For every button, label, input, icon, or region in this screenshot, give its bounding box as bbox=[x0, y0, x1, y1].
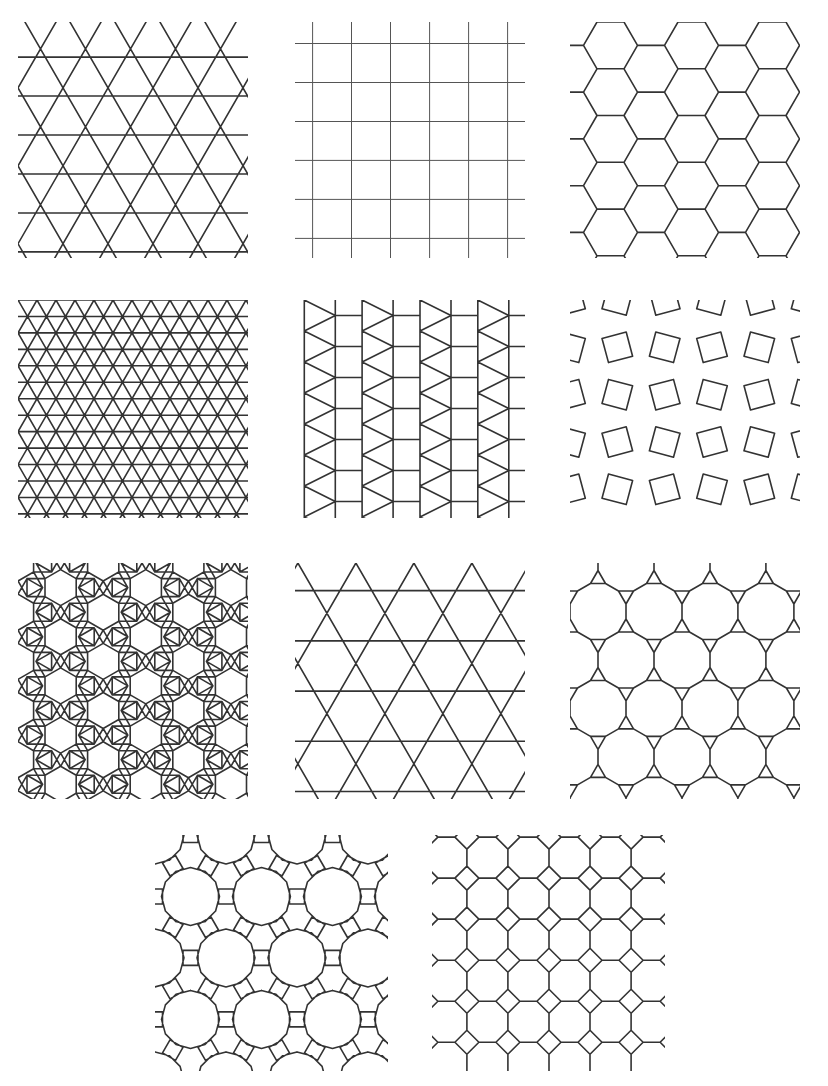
tiling-panel-truncated-hexagonal bbox=[570, 563, 800, 799]
rhombitrihexagonal-tiling-graphic bbox=[18, 563, 248, 799]
snub-square-tiling-graphic bbox=[570, 300, 800, 518]
tiling-panel-snub-hexagonal bbox=[18, 300, 248, 518]
hexagonal-tiling-graphic bbox=[570, 22, 800, 258]
tiling-panel-truncated-square bbox=[432, 835, 665, 1071]
tiling-panel-rhombitrihexagonal bbox=[18, 563, 248, 799]
tiling-panel-hexagonal bbox=[570, 22, 800, 258]
truncated-hexagonal-tiling-graphic bbox=[570, 563, 800, 799]
truncated-square-tiling-graphic bbox=[432, 835, 665, 1071]
square-tiling-graphic bbox=[295, 22, 525, 258]
tiling-panel-square bbox=[295, 22, 525, 258]
trihexagonal-tiling-graphic bbox=[295, 563, 525, 799]
tiling-panel-elongated-triangular bbox=[295, 300, 525, 518]
tiling-panel-triangular bbox=[18, 22, 248, 258]
triangular-tiling-graphic bbox=[18, 22, 248, 258]
tiling-panel-truncated-trihexagonal bbox=[155, 835, 388, 1071]
tiling-panel-trihexagonal bbox=[295, 563, 525, 799]
snub-hexagonal-tiling-graphic bbox=[18, 300, 248, 518]
tiling-panel-snub-square bbox=[570, 300, 800, 518]
elongated-triangular-tiling-graphic bbox=[295, 300, 525, 518]
truncated-trihexagonal-tiling-graphic bbox=[155, 835, 388, 1071]
